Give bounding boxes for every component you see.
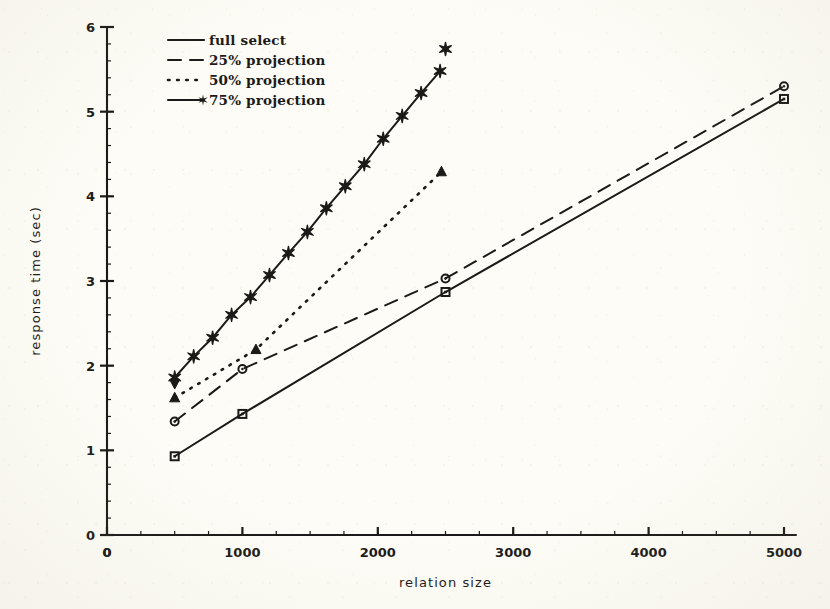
legend-label: full select (209, 32, 287, 48)
series-marker-full-select (241, 413, 244, 416)
series-marker-25-projection (241, 368, 243, 370)
figure-canvas: 01000200030004000500012345600relation si… (0, 0, 830, 609)
y-axis-tick-label: 1 (86, 443, 95, 458)
x-axis-tick-label: 1000 (224, 545, 260, 560)
series-marker-25-projection (444, 277, 446, 279)
legend-label: 75% projection (209, 92, 326, 108)
x-axis-tick-label: 3000 (495, 545, 531, 560)
series-marker-50-projection (436, 166, 446, 176)
y-axis-tick-label: 2 (86, 359, 95, 374)
y-axis-title: response time (sec) (28, 206, 43, 356)
x-axis-title: relation size (399, 575, 492, 590)
legend-item-full-select: full select (168, 32, 287, 48)
x-axis-tick-label: 5000 (766, 545, 802, 560)
series-line-50-projection (175, 172, 442, 398)
series-marker-25-projection (783, 85, 785, 87)
series-line-25-projection (175, 86, 784, 421)
series-marker-full-select (444, 291, 447, 294)
legend-label: 50% projection (209, 72, 326, 88)
y-axis-tick-label: 6 (86, 20, 95, 35)
y-axis-tick-label: 4 (86, 189, 95, 204)
legend-item-25-projection: 25% projection (168, 52, 326, 68)
series-marker-full-select (783, 98, 786, 101)
series-marker-50-projection (170, 392, 180, 402)
legend-label: 25% projection (209, 52, 326, 68)
series-marker-full-select (173, 455, 176, 458)
y-axis-tick-label: 3 (86, 274, 95, 289)
series-marker-75-projection-start-cap (170, 379, 180, 389)
y-axis-tick-label: 5 (86, 105, 95, 120)
series-marker-75-projection-end-cap (440, 42, 451, 55)
chart-plot: 01000200030004000500012345600relation si… (0, 0, 830, 609)
x-axis-tick-label: 4000 (631, 545, 667, 560)
series-marker-25-projection (174, 420, 176, 422)
legend-item-75-projection: 75% projection (168, 92, 326, 108)
legend-item-50-projection: 50% projection (168, 72, 326, 88)
y-axis-origin-label: 0 (86, 528, 95, 543)
x-axis-tick-label: 2000 (360, 545, 396, 560)
x-axis-origin-label: 0 (102, 545, 111, 560)
